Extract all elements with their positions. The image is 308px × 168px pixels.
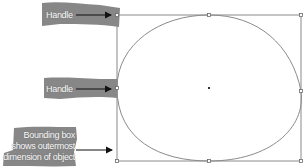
handle-middle-label: Handle <box>46 84 73 94</box>
handle-bottom-left[interactable] <box>116 160 119 163</box>
handle-middle-right[interactable] <box>300 90 303 93</box>
center-point <box>208 87 210 89</box>
handle-bottom-middle[interactable] <box>208 160 211 163</box>
handle-top-right[interactable] <box>300 14 303 17</box>
handle-middle-left[interactable] <box>116 87 119 90</box>
bounding-box-label-line3: dimension of object <box>0 152 75 162</box>
handle-top-left[interactable] <box>116 14 119 17</box>
handle-top-label: Handle <box>46 10 73 20</box>
bounding-box-label-line2: shows outermost <box>2 141 75 151</box>
handle-top-middle[interactable] <box>208 14 211 17</box>
bounding-box-label-line1: Bounding box <box>2 130 75 140</box>
handle-bottom-right[interactable] <box>300 160 303 163</box>
